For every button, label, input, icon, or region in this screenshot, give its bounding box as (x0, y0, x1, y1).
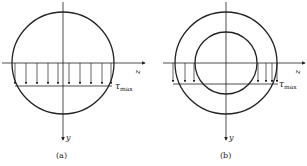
figure-b (163, 2, 305, 140)
y-axis-label-b: y (228, 133, 234, 142)
z-axis-label-a: z (134, 69, 143, 75)
figure-a (2, 2, 145, 140)
z-axis-label-b: z (294, 69, 303, 75)
caption-b: (b) (220, 151, 231, 160)
stress-arrows (173, 63, 277, 82)
tau-max-label-b: τmax (279, 79, 297, 90)
caption-a: (a) (56, 151, 67, 160)
y-axis-label-a: y (65, 133, 71, 142)
tau-max-label-a: τmax (115, 81, 133, 92)
shear-stress-diagram: z y τmax (a) z y τmax (b) (0, 0, 307, 166)
